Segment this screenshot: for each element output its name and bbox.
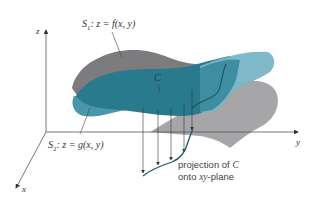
x-axis: [16, 132, 46, 188]
diagram-canvas: [0, 0, 317, 201]
z-axis-label: z: [36, 26, 40, 37]
s2-label: S2: z = g(x, y): [48, 139, 104, 155]
curve-c-label: C: [154, 72, 161, 83]
projection-label-line1: projection of C: [178, 159, 239, 171]
y-axis-label: y: [296, 137, 300, 148]
s1-label: S1: z = f(x, y): [82, 18, 135, 34]
projection-label: projection of C onto xy-plane: [178, 159, 239, 183]
surface-intersection-diagram: S1: z = f(x, y) S2: z = g(x, y) C z y x …: [0, 0, 317, 201]
x-axis-label: x: [22, 184, 26, 195]
projection-label-line2: onto xy-plane: [178, 171, 239, 183]
